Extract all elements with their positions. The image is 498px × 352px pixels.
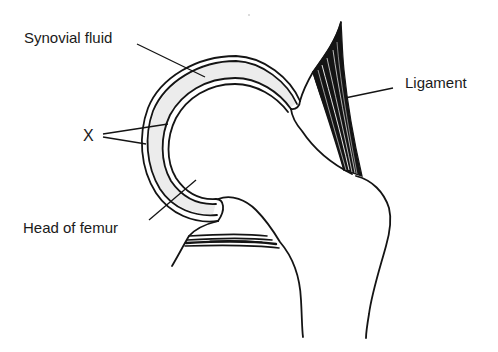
label-head-of-femur: Head of femur	[23, 220, 118, 235]
label-ligament: Ligament	[405, 75, 467, 90]
femoral-head-surface-line	[169, 84, 289, 199]
femur-right-outline	[356, 176, 390, 338]
arc-end-cap-bottom	[216, 199, 223, 221]
label-synovial-fluid: Synovial fluid	[24, 30, 112, 45]
synovial-fluid-leader-line	[137, 44, 205, 77]
hip-joint-diagram	[0, 0, 498, 352]
label-x: X	[83, 128, 94, 144]
x-leader-line-lower	[103, 137, 146, 144]
print-speck	[248, 14, 250, 16]
lower-ligament-band	[185, 235, 279, 249]
ligament-leader-line	[345, 88, 393, 98]
femur-lower-neck-line	[218, 197, 303, 337]
